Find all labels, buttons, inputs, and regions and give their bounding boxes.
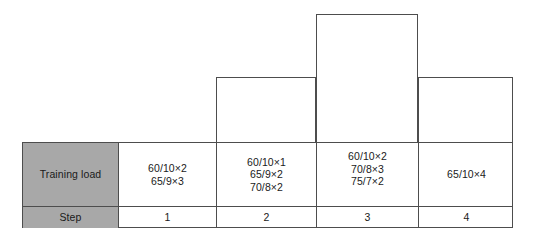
bar-step-3 — [316, 14, 418, 143]
load-line: 75/7×2 — [348, 175, 387, 188]
load-line: 60/10×1 — [247, 156, 286, 169]
training-load-cell-step-1: 60/10×2 65/9×3 — [119, 143, 217, 206]
training-load-table: Training load 60/10×2 65/9×3 60/10×1 65/… — [22, 142, 513, 228]
training-load-cell-step-2: 60/10×1 65/9×2 70/8×2 — [217, 143, 317, 206]
training-load-cell-step-4: 65/10×4 — [419, 143, 514, 206]
load-line: 65/10×4 — [447, 168, 486, 181]
step-cell-3: 3 — [317, 207, 419, 228]
step-loading-chart-figure: Training load 60/10×2 65/9×3 60/10×1 65/… — [0, 0, 536, 240]
table-row-step: Step 1 2 3 4 — [23, 206, 512, 228]
step-cell-1: 1 — [119, 207, 217, 228]
training-load-cell-step-3: 60/10×2 70/8×3 75/7×2 — [317, 143, 419, 206]
load-line: 65/9×3 — [148, 175, 187, 188]
load-line: 65/9×2 — [247, 168, 286, 181]
load-line: 60/10×2 — [148, 162, 187, 175]
bar-step-4 — [418, 77, 513, 143]
table-row-training-load: Training load 60/10×2 65/9×3 60/10×1 65/… — [23, 143, 512, 206]
load-line: 60/10×2 — [348, 150, 387, 163]
load-line: 70/8×2 — [247, 181, 286, 194]
bar-step-2 — [216, 77, 316, 143]
load-line: 70/8×3 — [348, 163, 387, 176]
step-cell-2: 2 — [217, 207, 317, 228]
step-cell-4: 4 — [419, 207, 514, 228]
row-label-training-load: Training load — [23, 143, 119, 206]
row-label-step: Step — [23, 207, 119, 228]
